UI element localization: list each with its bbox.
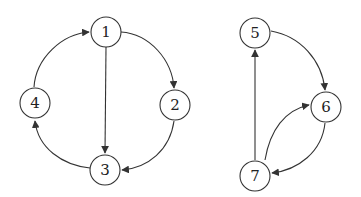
node-3-label: 3: [100, 161, 110, 179]
node-3: 3: [90, 155, 120, 185]
edge-1-to-3: [105, 47, 106, 153]
node-2: 2: [160, 90, 190, 120]
node-6: 6: [311, 92, 341, 122]
edge-3-to-4: [35, 121, 90, 168]
edge-1-to-2: [121, 32, 174, 88]
edge-6-to-7: [272, 123, 325, 173]
directed-graph-diagram: 1 2 3 4 5 6 7: [0, 0, 361, 197]
node-2-label: 2: [170, 96, 180, 114]
node-5-label: 5: [250, 24, 260, 42]
node-4: 4: [20, 88, 50, 118]
node-6-label: 6: [321, 98, 331, 116]
node-4-label: 4: [30, 94, 40, 112]
edge-4-to-1: [34, 32, 89, 87]
edge-2-to-3: [122, 121, 174, 170]
node-5: 5: [240, 18, 270, 48]
edge-5-to-6: [271, 31, 325, 90]
node-7: 7: [240, 161, 270, 191]
node-1: 1: [91, 17, 121, 47]
node-7-label: 7: [250, 167, 260, 185]
node-1-label: 1: [101, 23, 111, 41]
edge-7-to-6: [265, 105, 309, 160]
